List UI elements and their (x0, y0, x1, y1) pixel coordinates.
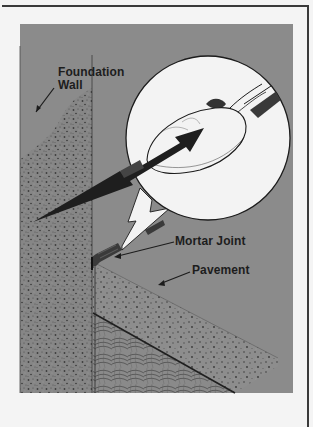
foundation-wall-label-line2: Wall (58, 79, 124, 92)
mortar-joint-label: Mortar Joint (175, 235, 246, 248)
pavement-label: Pavement (192, 264, 250, 277)
foundation-wall-label: Foundation Wall (58, 66, 124, 92)
